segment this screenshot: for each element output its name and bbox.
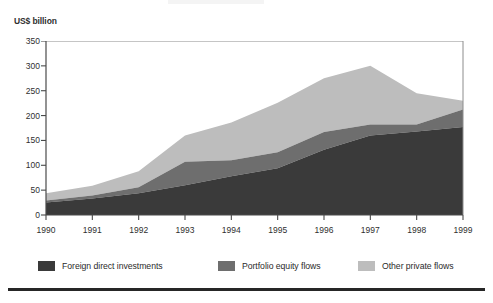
legend-entry: Other private flows (358, 259, 453, 273)
legend-label: Portfolio equity flows (242, 261, 321, 271)
y-axis-ticks (41, 41, 46, 215)
plot-area (46, 41, 463, 215)
y-axis-unit-label: US$ billion (14, 16, 57, 26)
x-axis-ticks (46, 215, 463, 220)
scan-artifact (168, 0, 264, 4)
x-axis-tick-labels: 1990199119921993199419951996199719981999 (46, 226, 463, 238)
bottom-divider-rule (8, 288, 485, 291)
legend-entry: Portfolio equity flows (218, 259, 321, 273)
x-tick-label: 1992 (129, 226, 148, 235)
legend-swatch-icon (38, 261, 55, 271)
legend-label: Foreign direct investments (62, 261, 163, 271)
x-tick-label: 1994 (222, 226, 241, 235)
x-tick-label: 1997 (361, 226, 380, 235)
chart-legend: Foreign direct investmentsPortfolio equi… (38, 259, 478, 273)
series-layers (46, 66, 463, 215)
legend-swatch-icon (218, 261, 235, 271)
stacked-area-plot (16, 41, 466, 223)
legend-label: Other private flows (382, 261, 453, 271)
legend-swatch-icon (358, 261, 375, 271)
chart-figure: US$ billion 050100150200250300350 199019… (0, 0, 493, 303)
x-tick-label: 1991 (83, 226, 102, 235)
x-tick-label: 1990 (37, 226, 56, 235)
x-tick-label: 1998 (407, 226, 426, 235)
x-tick-label: 1995 (268, 226, 287, 235)
x-tick-label: 1993 (176, 226, 195, 235)
x-tick-label: 1996 (315, 226, 334, 235)
legend-entry: Foreign direct investments (38, 259, 163, 273)
x-tick-label: 1999 (454, 226, 473, 235)
